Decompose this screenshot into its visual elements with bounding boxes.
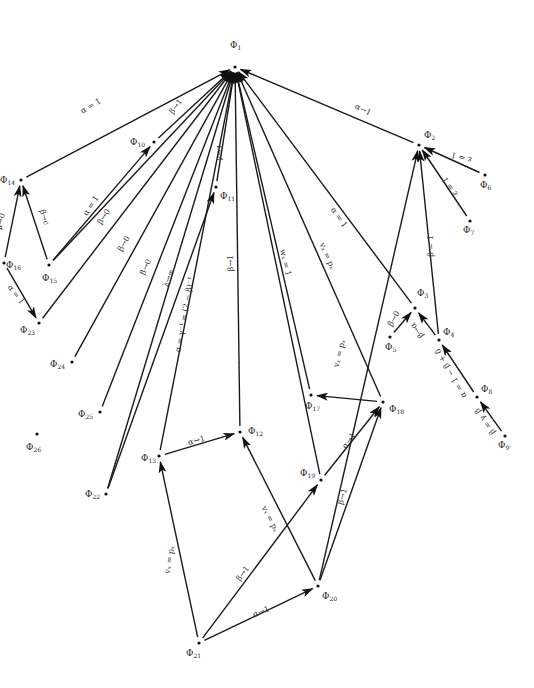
- node-label-Phi25: Φ25: [78, 409, 93, 420]
- edge-Phi11-to-Phi1: [217, 73, 234, 181]
- node-label-Phi24: Φ24: [50, 359, 65, 370]
- node-dot-Phi6: [483, 173, 486, 176]
- edge-Phi15-to-Phi10: [53, 147, 150, 261]
- edge-label: β→0: [138, 258, 153, 277]
- edge-Phi12-to-Phi1: [235, 73, 240, 426]
- phase-diagram: α = 1β→1β→0β→0β→0λ→∞γ→1β→1wₓ = 1vₓ = pₓα…: [0, 0, 534, 688]
- node-dot-Phi9p: [503, 434, 506, 437]
- node-dot-Phi21: [197, 641, 200, 644]
- node-dot-Phi15: [47, 263, 50, 266]
- node-dot-Phi7: [468, 219, 471, 222]
- node-dot-Phi19: [319, 478, 322, 481]
- edge-label: β→0: [116, 234, 132, 253]
- edge-Phi3-to-Phi1: [239, 72, 412, 303]
- node-dot-Phi22: [104, 492, 107, 495]
- node-dot-Phi24: [70, 360, 73, 363]
- edge-Phi20-to-Phi12: [243, 437, 316, 580]
- edge-label: ε = 1: [440, 175, 459, 197]
- edge-Phi16-to-Phi14: [5, 186, 20, 257]
- node-label-Phi11: Φ11: [220, 191, 235, 202]
- node-label-Phi15: Φ15: [42, 273, 57, 284]
- edge-label: vₓ = pₓ: [259, 503, 280, 533]
- edge-label: α→1: [187, 434, 206, 447]
- edge-label: α = 1: [329, 206, 349, 229]
- edge-label: β = γ_β: [473, 406, 498, 436]
- node-label-Phi14: Φ14: [0, 175, 15, 186]
- edge-label: α = γ⁻¹ = (2 − β)⁻¹: [173, 276, 195, 353]
- node-label-Phi6: Φ6: [480, 180, 491, 191]
- node-label-Phi5: Φ5: [385, 342, 396, 353]
- node-dot-Phi8: [475, 395, 478, 398]
- node-label-Phi22: Φ22: [85, 489, 100, 500]
- edge-label: α→1: [340, 431, 357, 450]
- node-label-Phi16: Φ16: [6, 260, 21, 271]
- edge-label: β→1: [167, 97, 184, 116]
- edge-Phi24-to-Phi1: [75, 72, 232, 356]
- edge-Phi19-to-Phi1: [236, 73, 320, 474]
- edge-label: β = 1: [426, 235, 435, 257]
- node-dot-Phi13: [157, 454, 160, 457]
- node-label-Phi26: Φ26: [26, 442, 41, 453]
- edge-label: α→1: [251, 604, 270, 619]
- node-dot-Phi18: [381, 400, 384, 403]
- edge-label: β→α: [408, 321, 425, 340]
- edge-label: β→0: [96, 207, 112, 226]
- node-dot-Phi2: [417, 143, 420, 146]
- node-dot-Phi12: [238, 430, 241, 433]
- edge-label: ε = 1: [450, 150, 473, 164]
- edge-Phi17-to-Phi1: [236, 73, 309, 389]
- node-label-Phi18: Φ18: [389, 404, 404, 415]
- edge-layer: [5, 69, 501, 640]
- edge-label: μ→0: [0, 212, 7, 231]
- node-label-Phi23: Φ23: [20, 325, 35, 336]
- edge-Phi23-to-Phi1: [43, 72, 232, 318]
- node-label-Phi1: Φ1: [230, 40, 241, 51]
- edge-label: α→1: [353, 102, 372, 118]
- node-label-Phi20: Φ20: [322, 591, 337, 602]
- node-layer: Φ1Φ2Φ3Φ4Φ5Φ6Φ7Φ8Φ9'Φ10Φ11Φ12Φ13Φ14Φ15Φ16…: [0, 40, 511, 659]
- edge-label: α = 1: [79, 96, 103, 115]
- edge-label: vₓ = pₓ: [162, 545, 176, 575]
- node-label-Phi7: Φ7: [463, 225, 474, 236]
- edge-label: α = 1 − β + δ: [433, 347, 469, 400]
- node-dot-Phi25: [98, 410, 101, 413]
- edge-label: β→1: [234, 564, 251, 583]
- edge-label: β→c: [38, 208, 51, 226]
- edge-label: γ→1: [214, 144, 225, 162]
- node-dot-Phi10: [152, 140, 155, 143]
- node-label-Phi8: Φ8: [481, 384, 492, 395]
- node-label-Phi10: Φ10: [130, 137, 145, 148]
- edge-label: vₓ = pₓ: [332, 339, 348, 370]
- node-label-Phi12: Φ12: [248, 426, 263, 437]
- node-label-Phi21: Φ21: [186, 648, 201, 659]
- node-dot-Phi14: [19, 178, 22, 181]
- node-dot-Phi11: [214, 185, 217, 188]
- edge-Phi2-to-Phi1: [241, 69, 414, 142]
- edge-label: λ→∞: [161, 268, 176, 288]
- node-label-Phi2: Φ2: [424, 130, 435, 141]
- edge-Phi15-to-Phi1: [53, 71, 231, 260]
- node-dot-Phi3: [413, 306, 416, 309]
- edge-label: α = 1: [6, 283, 27, 306]
- node-dot-Phi1: [233, 65, 236, 68]
- node-label-Phi9p: Φ9': [498, 440, 511, 451]
- node-dot-Phi5: [388, 335, 391, 338]
- node-dot-Phi23: [37, 321, 40, 324]
- node-label-Phi19: Φ19: [300, 468, 315, 479]
- edge-Phi13-to-Phi1: [160, 73, 234, 450]
- edge-label: β→1: [226, 255, 235, 271]
- node-label-Phi4: Φ4: [443, 327, 454, 338]
- node-label-Phi3: Φ3: [417, 288, 428, 299]
- node-dot-Phi4: [437, 338, 440, 341]
- node-dot-Phi20: [316, 584, 319, 587]
- edge-Phi14-to-Phi1: [26, 70, 229, 177]
- node-label-Phi17: Φ17: [305, 401, 320, 412]
- edge-Phi18-to-Phi17: [317, 396, 377, 402]
- node-label-Phi13: Φ13: [141, 453, 156, 464]
- node-dot-Phi26: [35, 432, 38, 435]
- node-dot-Phi17: [309, 393, 312, 396]
- edge-label: vₓ = pₓ: [317, 240, 337, 270]
- edge-Phi18-to-Phi1: [237, 73, 380, 397]
